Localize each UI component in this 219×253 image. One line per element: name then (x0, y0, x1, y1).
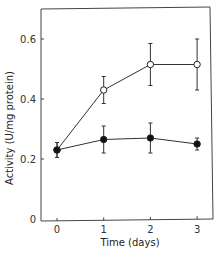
filled-circle-marker (147, 135, 153, 141)
series-line (57, 138, 197, 150)
plot-frame (41, 7, 213, 221)
top-border (41, 7, 210, 9)
series-open (54, 39, 201, 158)
chart: 00.20.40.6 0123 Time (days) Activity (U/… (0, 0, 219, 253)
x-tick-label: 2 (147, 224, 153, 235)
y-ticks: 00.20.40.6 (20, 34, 44, 225)
series-layer (54, 39, 201, 158)
open-circle-marker (194, 61, 200, 67)
y-tick-label: 0.4 (20, 94, 36, 105)
series-line (57, 65, 197, 151)
open-circle-marker (101, 87, 107, 93)
open-circle-marker (147, 61, 153, 67)
y-axis-title: Activity (U/mg protein) (4, 71, 15, 185)
x-tick-label: 3 (194, 224, 200, 235)
filled-circle-marker (101, 136, 107, 142)
x-tick-label: 1 (101, 224, 107, 235)
y-tick-label: 0.2 (20, 154, 36, 165)
y-tick-label: 0.6 (20, 34, 36, 45)
filled-circle-marker (54, 147, 60, 153)
x-axis (41, 219, 213, 221)
x-axis-title: Time (days) (99, 237, 159, 248)
x-tick-label: 0 (54, 224, 60, 235)
series-filled (54, 123, 201, 158)
right-border (210, 7, 213, 219)
y-tick-label: 0 (30, 214, 36, 225)
filled-circle-marker (194, 141, 200, 147)
